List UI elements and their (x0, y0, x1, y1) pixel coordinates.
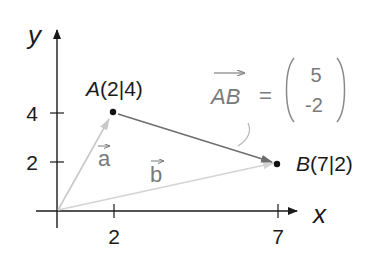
vector-a-label: a (98, 146, 111, 171)
vector-b (58, 163, 274, 210)
axes: y x 2 7 4 2 (26, 20, 327, 248)
point-a-label: A(2|4) (84, 77, 143, 100)
x-axis-label: x (311, 199, 327, 229)
vectors (58, 114, 274, 210)
point-b-coords: (7|2) (310, 152, 353, 175)
equation-equals: = (259, 83, 272, 108)
y-axis-label: y (26, 20, 43, 50)
point-a-coords: (2|4) (100, 77, 143, 100)
equation-lhs: AB (209, 84, 240, 109)
equation-bottom-value: -2 (305, 94, 323, 116)
vector-b-label: b (150, 162, 162, 187)
y-tick-label-2: 2 (26, 151, 38, 174)
x-tick-label-2: 2 (108, 225, 120, 248)
vector-diagram: y x 2 7 4 2 A(2|4) B(7|2) a b AB = (0, 0, 388, 254)
ab-equation: AB = 5 -2 (209, 58, 345, 122)
vector-a-label-group: a (98, 146, 111, 171)
leader-line (238, 123, 250, 146)
y-tick-label-4: 4 (26, 102, 38, 125)
right-paren (337, 58, 345, 122)
vector-b-label-group: b (150, 161, 164, 187)
x-tick-label-7: 7 (272, 225, 284, 248)
left-paren (287, 58, 295, 122)
equation-top-value: 5 (310, 64, 321, 86)
vector-ab (118, 114, 272, 162)
point-a-name: A (84, 77, 100, 100)
point-b-label: B(7|2) (296, 152, 353, 175)
point-b-dot (274, 161, 280, 167)
point-a-dot (110, 109, 116, 115)
point-b-name: B (296, 152, 310, 175)
